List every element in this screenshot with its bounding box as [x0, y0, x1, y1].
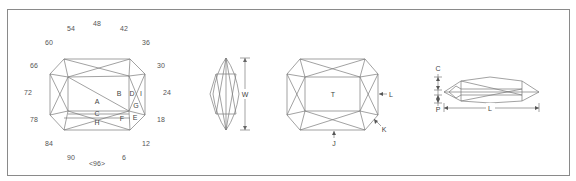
dial-label: 6 [122, 154, 126, 161]
facet-label-i: I [140, 90, 142, 97]
side-view: C P L [434, 65, 539, 113]
dial-label: 60 [45, 39, 53, 46]
facet-label-d: D [129, 90, 134, 97]
dial-label: 30 [157, 62, 165, 69]
dial-label: 12 [142, 140, 150, 147]
end-view: W [210, 58, 250, 130]
dial-label: 18 [157, 116, 165, 123]
dimension-label-p: P [436, 106, 441, 113]
facet-label-c: C [94, 110, 99, 117]
facet-label-j: J [332, 140, 336, 147]
facet-label-h: H [94, 119, 99, 126]
facet-label-k: K [382, 126, 387, 133]
facet-label-a: A [95, 98, 100, 105]
facet-label-l: L [389, 91, 393, 98]
dial-label: 24 [163, 89, 171, 96]
gem-diagram: 48 42 36 30 24 18 12 6 <96> 90 84 78 72 … [0, 0, 576, 181]
dial-label: 90 [67, 154, 75, 161]
facet-label-g: G [133, 102, 138, 109]
dimension-label-l: L [488, 105, 492, 112]
pavilion-view: A B C D E F G H I [50, 59, 145, 130]
facet-label-t: T [331, 91, 336, 98]
dial-label: 54 [67, 25, 75, 32]
dial-label: 72 [24, 89, 32, 96]
dial-label: 42 [120, 25, 128, 32]
facet-label-b: B [117, 90, 122, 97]
dimension-label-c: C [435, 65, 440, 72]
dial-label: 48 [93, 20, 101, 27]
dial-label: <96> [89, 160, 105, 167]
dimension-label-w: W [242, 91, 249, 98]
crown-view: T J K L [287, 59, 393, 147]
facet-label-f: F [120, 115, 124, 122]
dial-label: 78 [30, 116, 38, 123]
dial-label: 84 [45, 140, 53, 147]
facet-label-e: E [133, 114, 138, 121]
dial-label: 66 [30, 62, 38, 69]
dial-label: 36 [142, 39, 150, 46]
